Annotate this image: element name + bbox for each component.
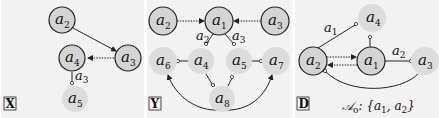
svg-text:Y: Y: [150, 97, 160, 111]
support-endpoint: [368, 35, 371, 38]
svg-text:a3: a3: [75, 68, 89, 85]
edge-a8-a4-line: [206, 74, 212, 84]
svg-text:X: X: [6, 97, 16, 111]
svg-text:D: D: [299, 97, 309, 111]
svg-text:a1: a1: [324, 20, 338, 37]
svg-text:a2: a2: [196, 28, 210, 45]
panel-y-graph: a2 a1 a3 a6 a4 a5 a7 a8 a2 a3 Y: [149, 7, 290, 112]
support-endpoint: [354, 22, 357, 25]
support-endpoint: [230, 75, 233, 78]
svg-text:a2: a2: [392, 43, 406, 60]
panel-d-graph: a4 a2 a1 a3 a1 a2 𝒜o: {a1, a2} D: [297, 4, 439, 115]
support-endpoint: [70, 81, 73, 84]
svg-text:a3: a3: [232, 28, 246, 45]
panel-x-graph: a2 a3 a4 a5 a3 X: [4, 7, 141, 112]
accepted-set-caption: 𝒜o: {a1, a2}: [342, 99, 415, 115]
argument-graphs: a2 a3 a4 a5 a3 X: [0, 0, 440, 118]
edge-a8-a5-support: [228, 78, 232, 86]
